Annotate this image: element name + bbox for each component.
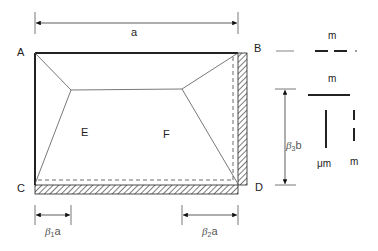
label-beta3b: β3b <box>286 140 302 152</box>
slab-diagram <box>0 0 378 251</box>
dimension-beta2a <box>182 205 238 225</box>
corner-label-c: C <box>17 183 25 194</box>
corner-label-a: A <box>17 47 24 58</box>
label-beta1a: β1a <box>45 226 61 238</box>
legend-label-2: m <box>328 74 336 84</box>
dimension-beta1a <box>35 205 71 225</box>
legend-label-1: m <box>328 31 336 41</box>
region-label-f: F <box>163 129 170 140</box>
hatched-support-bottom <box>35 185 238 194</box>
corner-label-d: D <box>255 182 263 193</box>
legend-label-3: μm <box>317 159 331 169</box>
hatched-support-right <box>238 53 247 185</box>
dimension-beta3b <box>275 89 296 185</box>
corner-label-b: B <box>254 43 261 54</box>
region-label-e: E <box>81 127 88 138</box>
legend-label-4: m <box>350 157 358 167</box>
label-dimension-a: a <box>131 27 137 38</box>
label-beta2a: β2a <box>202 226 218 238</box>
legend <box>276 50 357 148</box>
slab <box>35 53 247 194</box>
